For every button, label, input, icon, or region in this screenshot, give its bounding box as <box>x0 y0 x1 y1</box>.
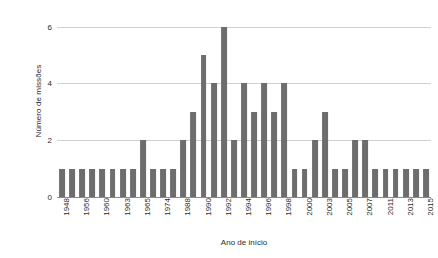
bar[interactable] <box>59 169 65 197</box>
bar-slot <box>168 21 178 197</box>
bar[interactable] <box>342 169 348 197</box>
bar[interactable] <box>241 83 247 197</box>
bar[interactable] <box>271 112 277 197</box>
x-tick-label: 2013 <box>406 198 424 207</box>
bar[interactable] <box>282 83 288 197</box>
bar[interactable] <box>140 140 146 197</box>
bar-slot <box>178 21 188 197</box>
bar[interactable] <box>69 169 75 197</box>
bar[interactable] <box>180 140 186 197</box>
bar[interactable] <box>413 169 419 197</box>
x-tick-label: 1998 <box>284 198 302 207</box>
bar-slot <box>310 21 320 197</box>
bar-chart-figure: Número de missões 0246 19481956196019631… <box>0 0 438 258</box>
bar-slot <box>259 21 269 197</box>
bar[interactable] <box>110 169 116 197</box>
plot-area: 0246 <box>57 21 431 197</box>
bar-slot <box>229 21 239 197</box>
bar-slot <box>97 21 107 197</box>
bar[interactable] <box>201 55 207 197</box>
bar-slot <box>77 21 87 197</box>
bar[interactable] <box>292 169 298 197</box>
x-tick-label: 1965 <box>143 198 161 207</box>
bar[interactable] <box>362 140 368 197</box>
bar-slot <box>67 21 77 197</box>
bar[interactable] <box>160 169 166 197</box>
x-tick-label: 1960 <box>102 198 120 207</box>
bar-slot <box>219 21 229 197</box>
bar-slot <box>199 21 209 197</box>
bar-slot <box>57 21 67 197</box>
bar[interactable] <box>403 169 409 197</box>
bar-slot <box>138 21 148 197</box>
bar[interactable] <box>261 83 267 197</box>
bar[interactable] <box>150 169 156 197</box>
y-tick-label: 0 <box>48 193 52 202</box>
x-tick-label: 1990 <box>204 198 222 207</box>
x-tick-label: 2011 <box>386 198 403 207</box>
bar[interactable] <box>383 169 389 197</box>
bar-slot <box>239 21 249 197</box>
bar[interactable] <box>191 112 197 197</box>
bar-slot <box>411 21 421 197</box>
x-tick-label: 2007 <box>365 198 383 207</box>
bar-slot <box>118 21 128 197</box>
bar[interactable] <box>170 169 176 197</box>
y-axis-title: Número de missões <box>34 8 48 194</box>
x-tick-label: 1994 <box>244 198 262 207</box>
bar-slot <box>148 21 158 197</box>
x-tick-label: 1992 <box>224 198 242 207</box>
bar-slot <box>279 21 289 197</box>
x-tick-label: 1974 <box>163 198 181 207</box>
x-axis-tick-labels: 1948195619601963196519741988199019921994… <box>57 198 431 240</box>
bar[interactable] <box>231 140 237 197</box>
bar-slot <box>158 21 168 197</box>
bar-slot <box>209 21 219 197</box>
y-tick-label: 2 <box>48 136 52 145</box>
x-tick-label: 1956 <box>82 198 100 207</box>
bar[interactable] <box>312 140 318 197</box>
bar-slot <box>391 21 401 197</box>
x-tick-label: 1948 <box>62 198 80 207</box>
bar-series <box>57 21 431 197</box>
x-tick-label: 2003 <box>325 198 343 207</box>
bar-slot <box>87 21 97 197</box>
bar[interactable] <box>352 140 358 197</box>
bar-slot <box>269 21 279 197</box>
bar[interactable] <box>302 169 308 197</box>
bar[interactable] <box>221 27 227 197</box>
bar-slot <box>300 21 310 197</box>
x-tick-label: 1996 <box>264 198 282 207</box>
bar-slot <box>249 21 259 197</box>
y-tick-label: 4 <box>48 79 52 88</box>
bar[interactable] <box>211 83 217 197</box>
bar[interactable] <box>251 112 257 197</box>
x-tick-label: 2000 <box>305 198 323 207</box>
x-tick-label: 1988 <box>183 198 201 207</box>
bar-slot <box>108 21 118 197</box>
bar[interactable] <box>423 169 429 197</box>
bar-slot <box>370 21 380 197</box>
bar[interactable] <box>89 169 95 197</box>
bar-slot <box>360 21 370 197</box>
bar[interactable] <box>100 169 106 197</box>
bar[interactable] <box>130 169 136 197</box>
x-tick-label: 2005 <box>345 198 363 207</box>
bar-slot <box>128 21 138 197</box>
bar[interactable] <box>393 169 399 197</box>
bar[interactable] <box>120 169 126 197</box>
x-axis-title: Ano de início <box>57 238 431 247</box>
bar[interactable] <box>372 169 378 197</box>
bar-slot <box>350 21 360 197</box>
bar[interactable] <box>322 112 328 197</box>
bar-slot <box>289 21 299 197</box>
bar-slot <box>320 21 330 197</box>
bar-slot <box>380 21 390 197</box>
bar-slot <box>421 21 431 197</box>
y-tick-label: 6 <box>48 22 52 31</box>
bar[interactable] <box>332 169 338 197</box>
bar[interactable] <box>79 169 85 197</box>
bar-slot <box>401 21 411 197</box>
bar-slot <box>340 21 350 197</box>
bar-slot <box>188 21 198 197</box>
